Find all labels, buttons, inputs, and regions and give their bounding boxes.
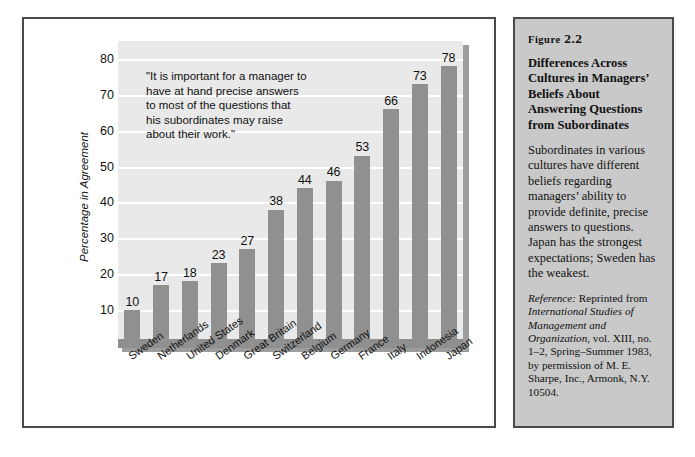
- figure-description: Subordinates in various cultures have di…: [528, 143, 659, 282]
- chart-annotation-quote: "It is important for a manager tohave at…: [146, 69, 358, 142]
- bar[interactable]: [383, 109, 399, 346]
- figure-number-label: Figure 2.2: [528, 31, 659, 47]
- bar-value-label: 27: [240, 235, 254, 248]
- annotation-line: "It is important for a manager to: [146, 69, 358, 84]
- y-axis-tick-label: 60: [76, 124, 114, 138]
- y-axis-tick-label: 80: [76, 52, 114, 66]
- y-axis-tick-label: 40: [76, 195, 114, 209]
- figure-reference: Reference: Reprinted from International …: [528, 292, 659, 399]
- x-axis-labels: SwedenNetherlandsUnited StatesDenmarkGre…: [118, 352, 463, 430]
- bar-value-label: 18: [183, 267, 197, 280]
- bar-value-label: 78: [442, 52, 456, 65]
- annotation-line: his subordinates may raise: [146, 113, 358, 128]
- bar[interactable]: [354, 156, 370, 346]
- y-axis: Percentage in Agreement 1020304050607080: [70, 41, 114, 346]
- bar[interactable]: [326, 181, 342, 346]
- annotation-line: have at hand precise answers: [146, 84, 358, 99]
- figure-root: Percentage in Agreement 1020304050607080…: [0, 0, 695, 457]
- bar-value-label: 44: [298, 174, 312, 187]
- bar-slot: 73: [406, 41, 435, 346]
- bar[interactable]: [441, 66, 457, 346]
- reference-label: Reference:: [528, 292, 576, 304]
- bar-value-label: 10: [125, 296, 139, 309]
- figure-kicker-number: 2.2: [564, 31, 582, 46]
- bar[interactable]: [412, 84, 428, 346]
- bar-value-label: 46: [327, 166, 341, 179]
- figure-title: Differences Across Cultures in Managers’…: [528, 56, 659, 133]
- y-axis-tick-label: 10: [76, 303, 114, 317]
- figure-caption-panel: Figure 2.2 Differences Across Cultures i…: [513, 17, 674, 428]
- bar-slot: 66: [377, 41, 406, 346]
- chart-frame: Percentage in Agreement 1020304050607080…: [22, 17, 496, 428]
- annotation-line: about their work.": [146, 127, 358, 142]
- bar-value-label: 53: [355, 141, 369, 154]
- bar-slot: 78: [434, 41, 463, 346]
- bar-value-label: 17: [154, 271, 168, 284]
- bar-value-label: 73: [413, 70, 427, 83]
- bar-value-label: 66: [384, 95, 398, 108]
- plot-shadow-right: [463, 45, 469, 350]
- annotation-line: to most of the questions that: [146, 98, 358, 113]
- y-axis-tick-label: 30: [76, 231, 114, 245]
- y-axis-tick-label: 20: [76, 267, 114, 281]
- bar-value-label: 23: [212, 249, 226, 262]
- figure-kicker-word: Figure: [528, 34, 561, 45]
- y-axis-tick-label: 50: [76, 160, 114, 174]
- bar-slot: 10: [118, 41, 147, 346]
- bar[interactable]: [124, 310, 140, 346]
- bar-value-label: 38: [269, 195, 283, 208]
- reference-text-1: Reprinted from: [576, 292, 647, 304]
- y-axis-tick-label: 70: [76, 88, 114, 102]
